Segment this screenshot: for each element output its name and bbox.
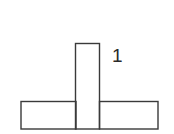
label-1: 1 [112, 45, 123, 66]
center-tall-rect [76, 44, 100, 130]
left-base-rect [21, 102, 76, 130]
diagram-canvas: 1 [0, 0, 174, 134]
right-base-rect [100, 102, 159, 130]
